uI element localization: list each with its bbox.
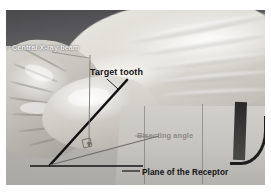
beam-label-leader bbox=[52, 52, 89, 58]
bisecting-angle-label: Bisecting angle bbox=[137, 131, 193, 140]
bisecting-angle-figure: Central X-ray beam Target tooth Bisectin… bbox=[0, 0, 271, 196]
target-tooth-axis-line bbox=[50, 80, 127, 165]
right-angle-marker bbox=[82, 138, 92, 148]
target-tooth-label: Target tooth bbox=[90, 67, 143, 77]
plane-of-receptor-label: Plane of the Receptor bbox=[142, 168, 228, 177]
target-label-leader bbox=[107, 79, 118, 89]
central-beam-label: Central X-ray beam bbox=[12, 43, 79, 52]
specimen-photograph: Central X-ray beam Target tooth Bisectin… bbox=[6, 10, 265, 185]
bisecting-angle-line bbox=[50, 136, 159, 165]
annotation-overlay bbox=[6, 10, 265, 185]
